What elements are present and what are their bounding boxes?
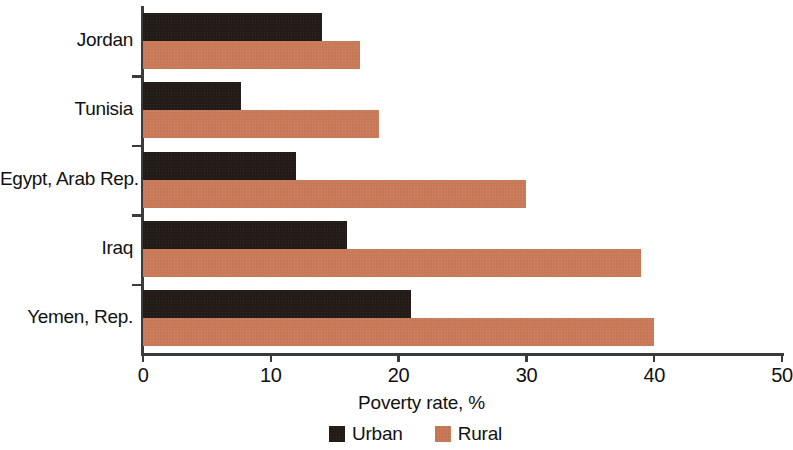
x-axis-tick xyxy=(397,353,400,362)
bars-layer xyxy=(143,6,782,351)
y-axis-tick xyxy=(132,75,142,78)
bar-urban-egypt-arab-rep xyxy=(143,152,296,180)
y-axis-tick xyxy=(132,145,142,148)
bar-rural-yemen-rep xyxy=(143,318,654,346)
legend-label: Urban xyxy=(352,423,403,445)
bar-rural-jordan xyxy=(143,41,360,69)
x-axis-tick-label: 40 xyxy=(643,364,664,387)
x-axis-title: Poverty rate, % xyxy=(0,392,791,414)
bar-rural-egypt-arab-rep xyxy=(143,180,526,208)
x-axis-tick-label: 0 xyxy=(138,364,149,387)
rural-swatch xyxy=(435,426,451,442)
bar-urban-tunisia xyxy=(143,82,241,110)
x-axis-tick xyxy=(270,353,273,362)
x-axis-tick xyxy=(781,353,784,362)
x-axis-tick-label: 10 xyxy=(260,364,281,387)
legend-item-urban: Urban xyxy=(329,423,403,445)
bar-urban-iraq xyxy=(143,221,347,249)
category-label: Tunisia xyxy=(0,98,133,120)
legend-label: Rural xyxy=(458,423,502,445)
y-axis-tick xyxy=(132,214,142,217)
urban-swatch xyxy=(329,426,345,442)
category-label: Egypt, Arab Rep. xyxy=(0,168,133,190)
x-axis-tick xyxy=(525,353,528,362)
legend-item-rural: Rural xyxy=(435,423,502,445)
bar-rural-iraq xyxy=(143,249,641,277)
category-label: Yemen, Rep. xyxy=(0,306,133,328)
x-axis-tick xyxy=(653,353,656,362)
x-axis-line xyxy=(141,353,784,356)
chart-legend: UrbanRural xyxy=(0,422,791,445)
x-axis-tick-label: 30 xyxy=(516,364,537,387)
bar-rural-tunisia xyxy=(143,110,379,138)
bar-urban-jordan xyxy=(143,13,322,41)
y-axis-tick xyxy=(132,284,142,287)
bar-urban-yemen-rep xyxy=(143,290,411,318)
x-axis-title-text: Poverty rate, % xyxy=(358,392,485,414)
category-label: Jordan xyxy=(0,29,133,51)
category-label: Iraq xyxy=(0,237,133,259)
x-axis-tick-label: 50 xyxy=(771,364,792,387)
x-axis-tick xyxy=(142,353,145,362)
x-axis-tick-label: 20 xyxy=(388,364,409,387)
